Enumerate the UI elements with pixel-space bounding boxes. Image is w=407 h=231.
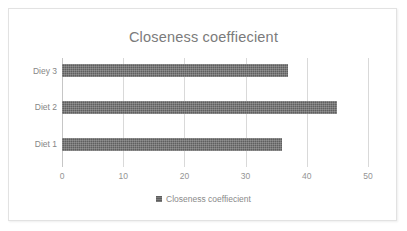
xtick-label-50: 50 bbox=[353, 171, 383, 181]
xtick-label-20: 20 bbox=[169, 171, 199, 181]
chart-container[interactable]: Closeness coeffiecient Diey 3 Diet 2 Die… bbox=[8, 8, 397, 221]
chart-title: Closeness coeffiecient bbox=[9, 29, 398, 45]
gridline-50 bbox=[368, 58, 369, 167]
xtick-label-10: 10 bbox=[108, 171, 138, 181]
bar-diey-3[interactable] bbox=[62, 64, 288, 77]
legend-label: Closeness coeffiecient bbox=[166, 194, 251, 204]
xtick-label-0: 0 bbox=[47, 171, 77, 181]
category-label-diet-1: Diet 1 bbox=[9, 139, 57, 149]
xtick-label-30: 30 bbox=[231, 171, 261, 181]
xtick-label-40: 40 bbox=[292, 171, 322, 181]
plot-area bbox=[62, 58, 368, 167]
bar-diet-2[interactable] bbox=[62, 101, 337, 114]
value-axis: 0 10 20 30 40 50 bbox=[62, 171, 368, 187]
bar-diet-1[interactable] bbox=[62, 138, 282, 151]
category-label-diet-2: Diet 2 bbox=[9, 102, 57, 112]
category-axis: Diey 3 Diet 2 Diet 1 bbox=[9, 58, 57, 167]
legend-swatch-icon bbox=[156, 196, 162, 202]
chart-legend[interactable]: Closeness coeffiecient bbox=[9, 194, 398, 204]
category-label-diey-3: Diey 3 bbox=[9, 66, 57, 76]
